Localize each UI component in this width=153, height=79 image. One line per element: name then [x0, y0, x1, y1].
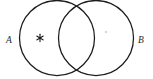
- set-label-a: A: [5, 35, 12, 45]
- venn-diagram-figure: A B: [0, 0, 153, 79]
- venn-diagram-canvas: A B: [0, 0, 153, 79]
- circle-set-b: [59, 1, 134, 76]
- set-label-b: B: [138, 35, 144, 45]
- dot-mark-icon: [105, 31, 107, 33]
- circle-set-a: [20, 1, 95, 76]
- asterisk-mark-icon: [36, 34, 44, 42]
